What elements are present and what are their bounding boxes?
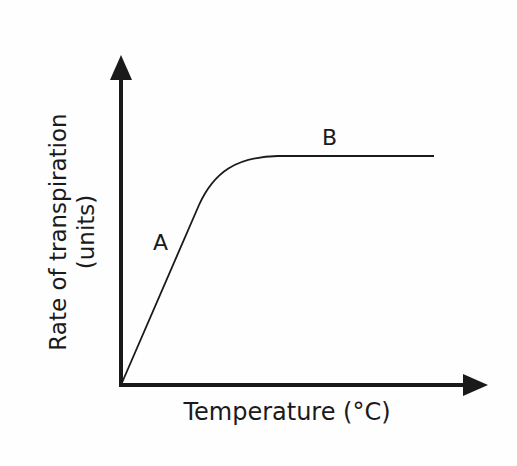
x-axis-arrow-icon [463,374,488,396]
chart-canvas: A B Temperature (°C) Rate of transpirati… [0,0,517,466]
y-axis-arrow-icon [110,55,132,80]
label-a: A [153,230,168,255]
x-axis-label: Temperature (°C) [182,398,390,426]
transpiration-chart: A B Temperature (°C) Rate of transpirati… [0,0,517,466]
label-b: B [322,125,337,150]
y-axis-units-label: (units) [73,195,99,270]
transpiration-curve [121,156,434,385]
y-axis-label: Rate of transpiration [45,113,71,350]
y-axis-label-group: Rate of transpiration (units) [45,113,99,350]
